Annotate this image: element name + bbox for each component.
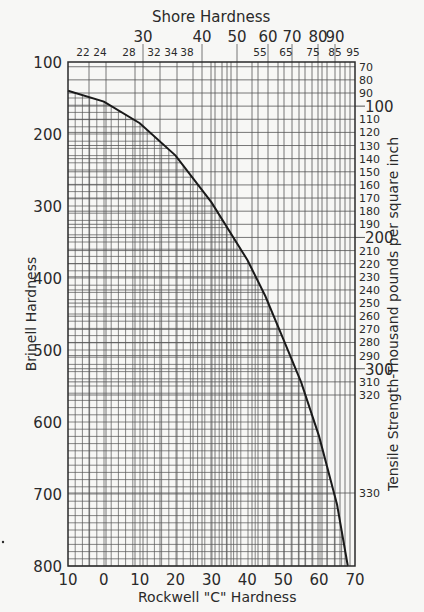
y-tick-label: 100 <box>33 54 62 72</box>
shore-major-label: 70 <box>282 28 301 46</box>
shore-major-label: 30 <box>133 28 152 46</box>
tensile-label: 80 <box>359 74 373 87</box>
x-tick-label: 0 <box>99 571 109 589</box>
shore-minor-label: 22 <box>76 46 89 58</box>
y-tick-label: 700 <box>33 486 62 504</box>
x-tick-label: 30 <box>202 571 221 589</box>
shore-minor-label: 34 <box>164 46 178 58</box>
tensile-label: 150 <box>359 166 380 179</box>
right-axis-title: Tensile Strength-Thousand pounds per squ… <box>386 137 400 491</box>
tensile-label: 180 <box>359 205 380 218</box>
y-tick-label: 300 <box>33 198 62 216</box>
shore-major-label: 40 <box>192 28 211 46</box>
x-tick-label: 50 <box>274 571 293 589</box>
tensile-label: 250 <box>359 297 380 310</box>
x-tick-label: 20 <box>166 571 185 589</box>
shore-major-label: 60 <box>258 28 277 46</box>
shore-minor-label: 32 <box>147 46 160 58</box>
tensile-label: 160 <box>359 179 380 192</box>
tensile-label: 70 <box>359 61 373 74</box>
tensile-label: 330 <box>359 487 380 500</box>
tensile-label: 210 <box>359 245 380 258</box>
tensile-label: 110 <box>359 113 380 126</box>
shore-minor-label: 75 <box>306 46 319 58</box>
x-axis-title: Rockwell "C" Hardness <box>138 590 296 604</box>
tensile-label: 240 <box>359 284 380 297</box>
shore-minor-label: 38 <box>180 46 193 58</box>
x-tick-label: 10 <box>58 571 77 589</box>
x-tick-label: 40 <box>238 571 257 589</box>
tensile-label: 260 <box>359 310 380 323</box>
shore-minor-label: 95 <box>346 46 359 58</box>
shore-major-label: 90 <box>325 28 344 46</box>
stray-dot <box>2 541 4 543</box>
tensile-label: 140 <box>359 153 380 166</box>
y-tick-label: 600 <box>33 414 62 432</box>
shore-minor-label: 55 <box>253 46 266 58</box>
tensile-label: 130 <box>359 140 380 153</box>
shore-minor-label: 24 <box>93 46 107 58</box>
x-tick-label: 60 <box>310 571 329 589</box>
chart-canvas: 1002003004005006007008001001020304050607… <box>0 0 424 612</box>
tensile-label: 120 <box>359 126 380 139</box>
tensile-label: 270 <box>359 323 380 336</box>
x-tick-label: 70 <box>345 571 364 589</box>
shore-minor-label: 28 <box>122 46 135 58</box>
x-tick-label: 10 <box>130 571 149 589</box>
y-tick-label: 200 <box>33 126 62 144</box>
tensile-label: 310 <box>359 376 380 389</box>
tensile-label: 230 <box>359 271 380 284</box>
shore-minor-label: 85 <box>328 46 341 58</box>
y-axis-title: Brinell Hardness <box>24 257 38 372</box>
shore-axis-title: Shore Hardness <box>152 10 270 25</box>
tensile-label: 220 <box>359 258 380 271</box>
shore-major-label: 50 <box>227 28 246 46</box>
shore-minor-label: 65 <box>279 46 292 58</box>
tensile-label: 320 <box>359 389 380 402</box>
tensile-label: 280 <box>359 336 380 349</box>
tensile-label: 170 <box>359 192 380 205</box>
